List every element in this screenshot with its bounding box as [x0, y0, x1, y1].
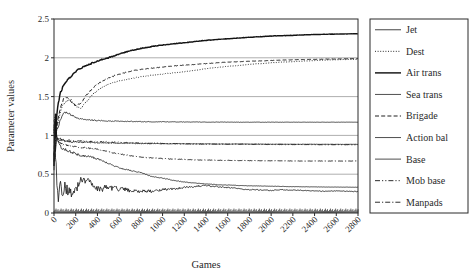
x-axis-title: Games [191, 259, 220, 270]
y-tick-label: 1.5 [38, 92, 50, 102]
legend-label-dest: Dest [406, 46, 425, 57]
y-tick-label: 0.5 [38, 169, 50, 179]
convergence-line-chart: 00.511.522.5 020040060080010001200140016… [0, 0, 471, 280]
y-tick-label: 2 [45, 53, 50, 63]
chart-figure: 00.511.522.5 020040060080010001200140016… [0, 0, 471, 280]
legend-label-action-bal: Action bal [406, 132, 448, 143]
legend-label-sea-trans: Sea trans [406, 89, 442, 100]
y-tick-label: 2.5 [38, 14, 50, 24]
legend-label-manpads: Manpads [406, 197, 443, 208]
legend-label-mob-base: Mob base [406, 175, 446, 186]
legend-label-jet: Jet [406, 24, 417, 35]
y-axis-title: Parameter values [5, 80, 16, 152]
legend-label-air-trans: Air trans [406, 67, 441, 78]
legend-label-brigade: Brigade [406, 110, 438, 121]
y-tick-label: 1 [45, 131, 50, 141]
legend-label-base: Base [406, 154, 426, 165]
